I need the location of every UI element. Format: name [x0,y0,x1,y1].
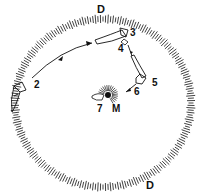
label-m: M [112,104,120,114]
trajectory-line [128,45,132,56]
label-4: 4 [118,44,124,54]
label-5: 5 [152,78,158,88]
diagram: D D M 2 3 4 5 6 7 [0,0,200,192]
organism-5 [131,55,146,84]
hatched-ring [11,15,196,192]
label-7: 7 [97,104,103,114]
label-2: 2 [34,80,40,90]
arrowhead-icon [86,41,92,46]
central-mass [105,92,111,98]
organism-7 [92,94,104,101]
label-6: 6 [134,87,140,97]
organism-3 [95,28,128,44]
diagram-drawing [0,0,200,192]
label-d-bottom: D [146,180,154,191]
label-3: 3 [130,28,136,38]
label-d-top: D [97,4,105,15]
